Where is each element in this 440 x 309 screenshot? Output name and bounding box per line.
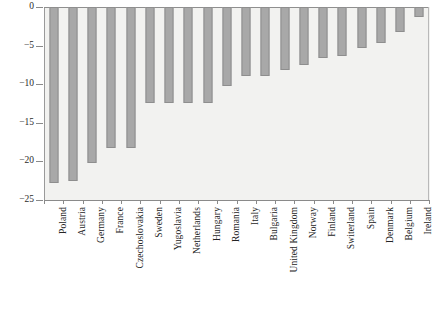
- bar-slot: [179, 7, 198, 200]
- x-axis-tick-label: Hungary: [212, 207, 222, 241]
- x-axis-tick-label: Germany: [96, 207, 106, 243]
- x-axis-tick-label: Italy: [250, 207, 260, 225]
- bar-slot: [275, 7, 294, 200]
- bar[interactable]: [299, 7, 308, 65]
- x-axis-tick-label: Czechoslovakia: [135, 207, 145, 269]
- y-axis-tick: [36, 123, 43, 124]
- bar-slot: [198, 7, 217, 200]
- x-axis-tick: [102, 200, 103, 204]
- bar-chart: 0−5−10−15−20−25 PolandAustriaGermanyFran…: [0, 0, 440, 309]
- x-axis-tick-label: Spain: [366, 207, 376, 229]
- x-axis-tick: [256, 200, 257, 204]
- x-axis-tick: [237, 200, 238, 204]
- y-axis-tick-label: 0: [4, 1, 34, 11]
- bar[interactable]: [415, 7, 424, 17]
- x-axis-tick-label: Austria: [77, 207, 87, 236]
- x-axis-tick-label: Netherlands: [192, 207, 202, 254]
- x-axis-tick-label: Sweden: [154, 207, 164, 238]
- x-axis-tick: [217, 200, 218, 204]
- bar-slot: [333, 7, 352, 200]
- bar[interactable]: [126, 7, 135, 148]
- x-axis-tick-label: Poland: [58, 207, 68, 234]
- bar-slot: [256, 7, 275, 200]
- x-axis-tick: [294, 200, 295, 204]
- bar[interactable]: [88, 7, 97, 163]
- bar[interactable]: [319, 7, 328, 58]
- x-axis-tick: [121, 200, 122, 204]
- x-axis-tick: [391, 200, 392, 204]
- x-axis-tick: [83, 200, 84, 204]
- x-axis-tick: [275, 200, 276, 204]
- bar-slot: [217, 7, 236, 200]
- bar-series: [44, 7, 429, 200]
- y-axis-tick: [36, 200, 43, 201]
- x-axis-tick-label: United Kingdom: [289, 207, 299, 273]
- bar-slot: [391, 7, 410, 200]
- y-axis-tick-label: −10: [4, 78, 34, 88]
- bar-slot: [121, 7, 140, 200]
- y-axis-tick: [36, 161, 43, 162]
- bar-slot: [44, 7, 63, 200]
- bar-slot: [294, 7, 313, 200]
- bar[interactable]: [203, 7, 212, 103]
- bar[interactable]: [338, 7, 347, 56]
- bar-slot: [314, 7, 333, 200]
- bar-slot: [371, 7, 390, 200]
- bar-slot: [410, 7, 429, 200]
- x-axis-tick-label: Ireland: [423, 207, 433, 235]
- x-axis-tick-label: Romania: [231, 207, 241, 242]
- bar[interactable]: [222, 7, 231, 86]
- bar[interactable]: [261, 7, 270, 76]
- bar[interactable]: [280, 7, 289, 70]
- x-axis-tick-label: Finland: [327, 207, 337, 237]
- y-axis-tick-label: −15: [4, 117, 34, 127]
- bar[interactable]: [145, 7, 154, 103]
- bar[interactable]: [242, 7, 251, 76]
- x-axis-tick: [44, 200, 45, 204]
- x-axis-tick: [333, 200, 334, 204]
- x-axis-tick-label: Switerland: [346, 207, 356, 249]
- x-axis-tick: [160, 200, 161, 204]
- bar[interactable]: [184, 7, 193, 103]
- y-axis-tick-label: −25: [4, 194, 34, 204]
- x-axis-tick: [314, 200, 315, 204]
- bar-slot: [237, 7, 256, 200]
- x-axis-tick: [410, 200, 411, 204]
- bar-slot: [352, 7, 371, 200]
- bar[interactable]: [396, 7, 405, 32]
- y-axis-tick-label: −5: [4, 40, 34, 50]
- bar-slot: [160, 7, 179, 200]
- x-axis-tick-label: France: [115, 207, 125, 233]
- x-axis-tick-label: Yugoslavia: [173, 207, 183, 250]
- bar-slot: [102, 7, 121, 200]
- y-axis-tick: [36, 84, 43, 85]
- x-axis-tick-label: Belgium: [404, 207, 414, 240]
- x-axis-tick: [63, 200, 64, 204]
- y-axis-tick: [36, 46, 43, 47]
- x-axis-tick: [429, 200, 430, 204]
- x-axis-tick: [179, 200, 180, 204]
- x-axis-tick: [352, 200, 353, 204]
- x-axis-tick-label: Bulgaria: [269, 207, 279, 241]
- bar-slot: [83, 7, 102, 200]
- bar-slot: [140, 7, 159, 200]
- y-axis-tick-label: −20: [4, 155, 34, 165]
- bar[interactable]: [357, 7, 366, 48]
- x-axis-tick: [198, 200, 199, 204]
- bar[interactable]: [165, 7, 174, 103]
- y-axis-tick: [36, 7, 43, 8]
- bar[interactable]: [107, 7, 116, 148]
- bar[interactable]: [376, 7, 385, 43]
- bar-slot: [63, 7, 82, 200]
- x-axis-tick: [140, 200, 141, 204]
- bar[interactable]: [68, 7, 77, 181]
- x-axis-tick-label: Norway: [308, 207, 318, 238]
- bar[interactable]: [49, 7, 58, 183]
- x-axis-tick: [371, 200, 372, 204]
- x-axis-tick-label: Denmark: [385, 207, 395, 243]
